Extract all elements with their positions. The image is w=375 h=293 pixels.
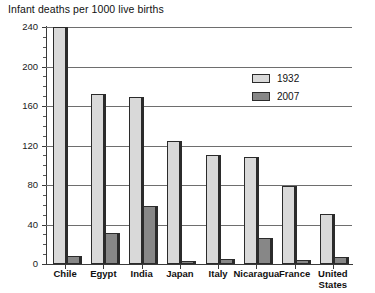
legend: 1932 2007 (252, 71, 299, 107)
bar-egypt-1932 (91, 94, 104, 264)
chart-title: Infant deaths per 1000 live births (8, 3, 164, 15)
y-tick-label-200: 200 (8, 61, 38, 72)
bar-japan-2007 (181, 261, 194, 264)
gridline-200 (46, 67, 352, 68)
bar-shadow (271, 238, 273, 264)
legend-label-1932: 1932 (277, 73, 299, 84)
plot-area (46, 27, 352, 264)
bar-india-1932 (129, 97, 142, 264)
x-label-line: United (310, 268, 356, 279)
bar-japan-1932 (167, 141, 180, 264)
y-tick-label-160: 160 (8, 100, 38, 111)
gridline-240 (46, 27, 352, 28)
legend-item-1932: 1932 (252, 71, 299, 85)
bar-shadow (180, 141, 182, 264)
y-tick-label-120: 120 (8, 140, 38, 151)
bar-italy-1932 (206, 155, 219, 264)
legend-swatch-2007 (252, 92, 270, 101)
bar-shadow (66, 27, 68, 264)
bar-shadow (80, 256, 82, 264)
bar-chile-1932 (53, 27, 66, 264)
bar-shadow (309, 260, 311, 264)
bar-chile-2007 (67, 256, 80, 264)
bar-united-states-1932 (320, 214, 333, 264)
legend-item-2007: 2007 (252, 89, 299, 103)
bar-india-2007 (143, 206, 156, 264)
bar-nicaragua-1932 (244, 157, 257, 264)
bar-nicaragua-2007 (258, 238, 271, 264)
legend-swatch-1932 (252, 74, 270, 83)
bar-shadow (194, 261, 196, 264)
bar-chart: Infant deaths per 1000 live births 04080… (0, 0, 375, 293)
bar-united-states-2007 (334, 257, 347, 264)
y-tick-label-40: 40 (8, 219, 38, 230)
y-tick-label-0: 0 (8, 258, 38, 269)
bar-shadow (347, 257, 349, 264)
bar-shadow (295, 186, 297, 264)
x-axis-line (46, 264, 353, 265)
bar-egypt-2007 (105, 233, 118, 264)
x-label-united-states: UnitedStates (310, 268, 356, 290)
y-tick-label-80: 80 (8, 179, 38, 190)
x-label-line: States (310, 279, 356, 290)
bar-shadow (118, 233, 120, 264)
bar-shadow (233, 259, 235, 264)
legend-label-2007: 2007 (277, 91, 299, 102)
y-tick-label-240: 240 (8, 21, 38, 32)
bar-shadow (156, 206, 158, 264)
bar-france-2007 (296, 260, 309, 264)
y-major-tick-0 (42, 264, 46, 265)
bar-italy-2007 (220, 259, 233, 264)
bar-shadow (219, 155, 221, 264)
bar-france-1932 (282, 186, 295, 264)
